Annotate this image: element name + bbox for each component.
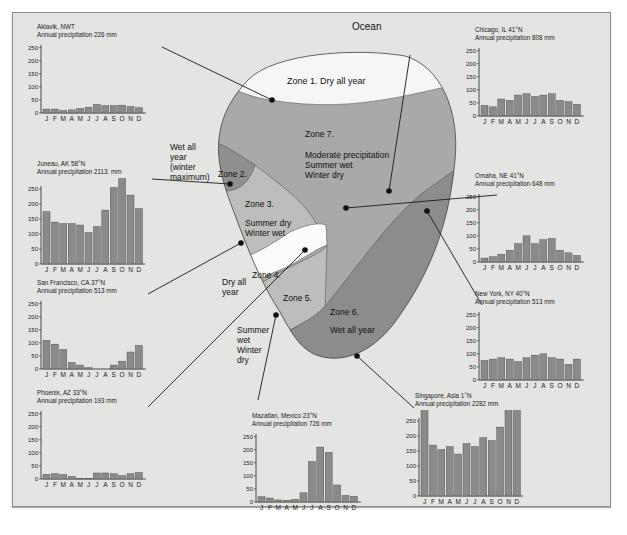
svg-text:50: 50 xyxy=(31,463,38,469)
bar-chart: 050100150200250JFMAMJJASOND xyxy=(463,44,588,138)
chart-san-francisco: San Francisco, CA 37°NAnnual precipitati… xyxy=(37,279,162,383)
svg-text:100: 100 xyxy=(28,84,39,90)
bar-chart: 050100150200250JFMAMJJASOND xyxy=(463,190,588,284)
zone-6-label: Zone 6. xyxy=(330,307,359,317)
svg-text:O: O xyxy=(558,118,563,125)
svg-text:M: M xyxy=(292,504,297,511)
bar-chart: 050100150200250JFMAMJJASOND xyxy=(463,308,588,402)
svg-text:J: J xyxy=(302,504,305,511)
svg-text:150: 150 xyxy=(466,74,477,80)
svg-text:200: 200 xyxy=(243,447,254,453)
svg-text:S: S xyxy=(327,504,332,511)
svg-text:S: S xyxy=(112,371,117,378)
svg-text:wet: wet xyxy=(236,335,251,345)
svg-text:0: 0 xyxy=(473,377,477,383)
svg-text:M: M xyxy=(61,371,66,378)
svg-text:N: N xyxy=(128,481,133,488)
svg-text:100: 100 xyxy=(28,231,39,237)
chart-title: New York, NY 40°NAnnual precipitation 51… xyxy=(475,290,555,306)
svg-text:150: 150 xyxy=(28,327,39,333)
svg-text:S: S xyxy=(490,498,495,505)
dot-juneau xyxy=(227,181,233,187)
svg-text:D: D xyxy=(137,266,142,273)
svg-text:250: 250 xyxy=(28,186,39,192)
svg-text:J: J xyxy=(533,264,536,271)
svg-text:J: J xyxy=(533,382,536,389)
svg-text:O: O xyxy=(558,264,563,271)
svg-text:50: 50 xyxy=(31,97,38,103)
svg-text:F: F xyxy=(431,498,435,505)
zone-5-note: Summer wet Winter dry xyxy=(236,325,269,365)
svg-text:F: F xyxy=(491,264,495,271)
svg-text:150: 150 xyxy=(28,71,39,77)
bar-chart: 050100150200250JFMAMJJASOND xyxy=(240,430,365,524)
svg-text:F: F xyxy=(53,481,57,488)
svg-text:J: J xyxy=(45,371,48,378)
svg-text:100: 100 xyxy=(243,473,254,479)
svg-text:J: J xyxy=(525,118,528,125)
svg-text:100: 100 xyxy=(28,450,39,456)
svg-text:A: A xyxy=(541,118,546,125)
chart-aklavik: Aklavik, NWTAnnual precipitation 226 mm0… xyxy=(37,23,162,127)
bar-chart: 050100150200250JFMAMJJASOND xyxy=(25,178,145,286)
svg-text:100: 100 xyxy=(28,340,39,346)
svg-text:year: year xyxy=(170,152,187,162)
svg-text:F: F xyxy=(268,504,272,511)
svg-text:S: S xyxy=(112,115,117,122)
svg-text:0: 0 xyxy=(35,261,39,267)
svg-text:0: 0 xyxy=(473,259,477,265)
dot-aklavik xyxy=(269,97,275,103)
svg-text:50: 50 xyxy=(469,246,476,252)
svg-text:250: 250 xyxy=(466,194,477,200)
dot-chicago xyxy=(386,188,392,194)
svg-text:A: A xyxy=(508,118,513,125)
svg-text:M: M xyxy=(515,118,520,125)
svg-text:0: 0 xyxy=(250,499,254,505)
svg-text:150: 150 xyxy=(28,216,39,222)
svg-text:A: A xyxy=(318,504,323,511)
svg-text:0: 0 xyxy=(413,493,417,499)
svg-text:N: N xyxy=(566,264,571,271)
zone-7-desc-3: Winter dry xyxy=(305,170,344,180)
svg-text:J: J xyxy=(473,498,476,505)
svg-text:A: A xyxy=(508,382,513,389)
svg-text:J: J xyxy=(483,118,486,125)
chart-title: Singapore, Asia 1°NAnnual precipitation … xyxy=(415,392,498,408)
svg-text:O: O xyxy=(120,371,125,378)
svg-text:A: A xyxy=(70,481,75,488)
svg-text:150: 150 xyxy=(466,220,477,226)
svg-text:M: M xyxy=(77,481,82,488)
svg-text:J: J xyxy=(465,498,468,505)
svg-text:A: A xyxy=(285,504,290,511)
svg-text:O: O xyxy=(335,504,340,511)
svg-text:Winter: Winter xyxy=(237,345,262,355)
svg-text:M: M xyxy=(61,115,66,122)
svg-text:A: A xyxy=(508,264,513,271)
svg-text:0: 0 xyxy=(35,476,39,482)
svg-text:150: 150 xyxy=(406,448,417,454)
svg-text:N: N xyxy=(566,118,571,125)
svg-text:O: O xyxy=(120,481,125,488)
dot-singapore xyxy=(354,353,360,359)
svg-text:O: O xyxy=(498,498,503,505)
svg-text:50: 50 xyxy=(31,246,38,252)
bar-chart: 050100150200250JFMAMJJASOND xyxy=(25,407,150,501)
svg-text:200: 200 xyxy=(466,61,477,67)
svg-text:A: A xyxy=(541,382,546,389)
svg-text:M: M xyxy=(455,498,460,505)
chart-new-york: New York, NY 40°NAnnual precipitation 51… xyxy=(475,290,600,394)
zone-7-desc-1: Moderate precipitation xyxy=(305,150,389,160)
svg-text:J: J xyxy=(87,266,90,273)
svg-text:100: 100 xyxy=(466,351,477,357)
svg-text:J: J xyxy=(525,382,528,389)
chart-title: San Francisco, CA 37°NAnnual precipitati… xyxy=(37,279,117,295)
svg-text:250: 250 xyxy=(406,418,417,424)
zone-1-label: Zone 1. Dry all year xyxy=(287,76,366,86)
dot-new-york xyxy=(424,208,430,214)
chart-title: Juneau, AK 58°NAnnual precipitation 2113… xyxy=(37,160,122,176)
svg-text:Wet all: Wet all xyxy=(170,142,196,152)
svg-text:J: J xyxy=(423,498,426,505)
svg-text:N: N xyxy=(128,266,133,273)
svg-text:250: 250 xyxy=(28,411,39,417)
svg-text:A: A xyxy=(541,264,546,271)
